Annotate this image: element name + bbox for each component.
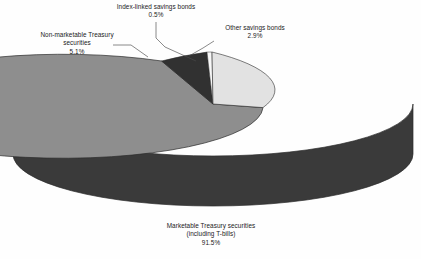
chart-canvas: Index-linked savings bonds 0.5% Non-mark… bbox=[0, 0, 421, 259]
pie-slice-other-savings-bonds[interactable] bbox=[212, 52, 275, 108]
slice-label-non-marketable-treasury-securities: Non-marketable Treasury securities 5.1% bbox=[18, 31, 136, 56]
slice-label-text: Index-linked savings bonds bbox=[101, 3, 211, 11]
slice-label-marketable-treasury-securities: Marketable Treasury securities (includin… bbox=[133, 222, 289, 247]
slice-label-percent: 0.5% bbox=[101, 11, 211, 19]
slice-label-index-linked-savings-bonds: Index-linked savings bonds 0.5% bbox=[101, 3, 211, 20]
slice-label-text: Other savings bonds bbox=[197, 24, 313, 32]
slice-label-text-line-1: Marketable Treasury securities bbox=[133, 222, 289, 230]
slice-label-other-savings-bonds: Other savings bonds 2.9% bbox=[197, 24, 313, 41]
slice-label-percent: 91.5% bbox=[133, 239, 289, 247]
slice-label-text-line-2: (including T-bills) bbox=[133, 230, 289, 238]
slice-label-percent: 5.1% bbox=[18, 48, 136, 56]
slice-label-text-line-1: Non-marketable Treasury bbox=[18, 31, 136, 39]
slice-label-percent: 2.9% bbox=[197, 32, 313, 40]
slice-label-text-line-2: securities bbox=[18, 39, 136, 47]
